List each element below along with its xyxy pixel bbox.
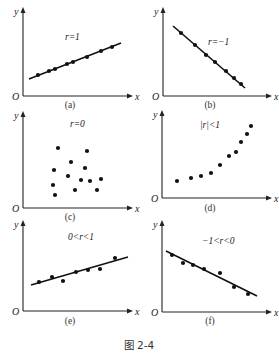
data-point	[71, 60, 75, 64]
origin-label: O	[12, 306, 19, 317]
r-annotation: r=1	[65, 32, 80, 42]
x-arrow-icon	[127, 206, 133, 211]
data-point	[53, 193, 57, 197]
panel-d: yxO|r|<1(d)	[151, 109, 279, 214]
data-point	[227, 154, 231, 158]
data-point	[224, 69, 228, 73]
data-point	[66, 174, 70, 178]
y-arrow-icon	[21, 111, 26, 117]
r-annotation: r=0	[70, 119, 85, 129]
data-point	[239, 140, 243, 144]
data-point	[56, 146, 60, 150]
data-point	[86, 268, 90, 272]
data-point	[181, 261, 185, 265]
data-point	[74, 270, 78, 274]
data-point	[202, 267, 206, 271]
panel-caption: (d)	[204, 203, 215, 214]
panel-a: yxOr=1(a)	[12, 6, 140, 111]
data-point	[239, 82, 243, 86]
data-point	[99, 177, 103, 181]
y-axis-label: y	[153, 6, 159, 17]
data-point	[204, 53, 208, 57]
data-point	[52, 168, 56, 172]
data-point	[53, 67, 57, 71]
r-annotation: −1<r<0	[202, 236, 235, 246]
panel-caption: (f)	[205, 316, 215, 327]
y-axis-label: y	[13, 6, 19, 17]
r-annotation: |r|<1	[200, 120, 220, 130]
x-arrow-icon	[266, 196, 272, 201]
figure-caption: 图 2-4	[124, 339, 155, 351]
x-axis-label: x	[134, 91, 140, 102]
r-annotation: r=−1	[208, 37, 229, 47]
x-axis-label: x	[273, 193, 279, 204]
regression-line	[29, 43, 121, 79]
panel-e: yxO0<r<1(e)	[12, 219, 140, 327]
data-point	[50, 275, 54, 279]
panel-caption: (c)	[65, 212, 76, 223]
data-point	[189, 176, 193, 180]
data-point	[245, 132, 249, 136]
y-axis-label: y	[152, 109, 158, 120]
data-point	[232, 76, 236, 80]
x-arrow-icon	[266, 94, 272, 99]
y-axis-label: y	[13, 110, 19, 121]
data-point	[98, 267, 102, 271]
origin-label: O	[151, 307, 158, 318]
data-point	[47, 69, 51, 73]
data-point	[232, 285, 236, 289]
data-point	[193, 43, 197, 47]
regression-line	[31, 257, 128, 285]
regression-line	[166, 251, 257, 296]
data-point	[69, 160, 73, 164]
x-arrow-icon	[127, 94, 133, 99]
panel-caption: (e)	[65, 316, 76, 327]
y-axis-label: y	[13, 219, 19, 230]
x-axis-label: x	[273, 307, 279, 318]
data-point	[218, 163, 222, 167]
data-point	[191, 263, 195, 267]
x-axis-label: x	[134, 203, 140, 214]
y-arrow-icon	[160, 110, 165, 116]
y-axis-label: y	[152, 219, 158, 230]
data-point	[209, 171, 213, 175]
data-point	[213, 60, 217, 64]
data-point	[249, 124, 253, 128]
y-arrow-icon	[161, 7, 166, 13]
data-point	[85, 55, 89, 59]
data-point	[218, 271, 222, 275]
data-point	[36, 73, 40, 77]
x-arrow-icon	[266, 310, 272, 315]
data-point	[234, 150, 238, 154]
origin-label: O	[12, 91, 19, 102]
data-point	[179, 31, 183, 35]
x-arrow-icon	[127, 309, 133, 314]
data-point	[51, 183, 55, 187]
data-point	[246, 292, 250, 296]
data-point	[61, 279, 65, 283]
data-point	[88, 179, 92, 183]
panel-b: yxOr=−1(b)	[152, 6, 279, 111]
data-point	[83, 166, 87, 170]
panel-c: yxOr=0(c)	[12, 110, 140, 223]
panel-caption: (a)	[65, 100, 76, 111]
r-annotation: 0<r<1	[68, 232, 94, 242]
x-axis-label: x	[134, 306, 140, 317]
data-point	[113, 256, 117, 260]
data-point	[199, 174, 203, 178]
data-point	[73, 188, 77, 192]
data-point	[95, 188, 99, 192]
data-point	[99, 49, 103, 53]
data-point	[65, 62, 69, 66]
data-point	[175, 179, 179, 183]
data-point	[37, 280, 41, 284]
y-arrow-icon	[160, 220, 165, 226]
panel-caption: (b)	[204, 100, 215, 111]
origin-label: O	[151, 193, 158, 204]
x-axis-label: x	[273, 91, 279, 102]
origin-label: O	[152, 91, 159, 102]
y-arrow-icon	[21, 220, 26, 226]
y-arrow-icon	[21, 7, 26, 13]
data-point	[85, 149, 89, 153]
origin-label: O	[12, 203, 19, 214]
